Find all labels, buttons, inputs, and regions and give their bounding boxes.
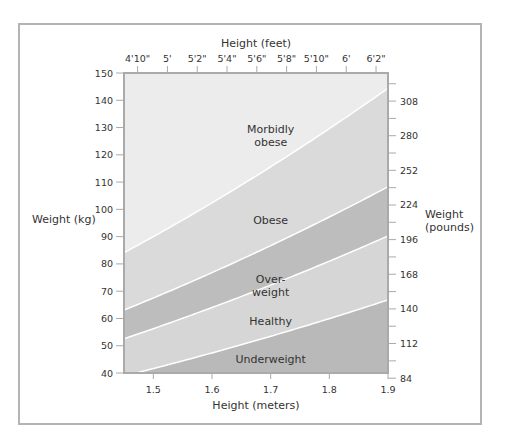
y2-tick-label: 280	[400, 130, 418, 141]
bmi-chart: UnderweightHealthyOver-weightObeseMorbid…	[0, 0, 510, 447]
y2-axis-title: Weight	[425, 208, 464, 221]
x2-axis-title: Height (feet)	[221, 37, 291, 50]
x2-tick-label: 5'4"	[217, 53, 236, 64]
band-label: weight	[252, 286, 290, 299]
band-label: Healthy	[249, 315, 292, 328]
band-label: Over-	[256, 273, 286, 286]
x2-tick-label: 5'6"	[247, 53, 266, 64]
y-axis-title: Weight (kg)	[32, 213, 96, 226]
x-tick-label: 1.8	[322, 384, 337, 395]
x2-tick-label: 5'8"	[277, 53, 296, 64]
y2-tick-label: 140	[400, 303, 418, 314]
x2-tick-label: 5'10"	[304, 53, 329, 64]
y-tick-label: 40	[101, 368, 113, 379]
x2-tick-label: 5'	[163, 53, 172, 64]
y2-tick-label: 112	[400, 338, 418, 349]
band-label: Underweight	[235, 353, 306, 366]
y2-tick-label: 224	[400, 199, 418, 210]
y-tick-label: 140	[95, 95, 113, 106]
y2-tick-label: 168	[400, 269, 418, 280]
x-tick-label: 1.9	[380, 384, 395, 395]
y2-tick-label: 252	[400, 165, 418, 176]
x-tick-label: 1.7	[263, 384, 278, 395]
y-tick-label: 60	[101, 313, 113, 324]
y-tick-label: 110	[95, 177, 113, 188]
y-tick-label: 120	[95, 149, 113, 160]
y-tick-label: 130	[95, 122, 113, 133]
band-label: Morbidly	[247, 123, 295, 136]
x2-tick-label: 6'2"	[366, 53, 385, 64]
y-tick-label: 70	[101, 286, 113, 297]
y2-axis-title: (pounds)	[425, 221, 474, 234]
y-tick-label: 50	[101, 340, 113, 351]
y2-tick-label: 308	[400, 96, 418, 107]
y-tick-label: 80	[101, 258, 113, 269]
y-tick-label: 90	[101, 231, 113, 242]
x2-tick-label: 4'10"	[125, 53, 150, 64]
y-tick-label: 100	[95, 204, 113, 215]
x2-tick-label: 6'	[342, 53, 351, 64]
y2-tick-label: 196	[400, 234, 418, 245]
x-tick-label: 1.5	[146, 384, 161, 395]
x2-tick-label: 5'2"	[188, 53, 207, 64]
x-tick-label: 1.6	[204, 384, 219, 395]
x-axis-title: Height (meters)	[212, 399, 299, 412]
band-label: obese	[254, 136, 287, 149]
band-label: Obese	[253, 214, 288, 227]
y2-tick-label: 84	[400, 373, 412, 384]
y-tick-label: 150	[95, 68, 113, 79]
